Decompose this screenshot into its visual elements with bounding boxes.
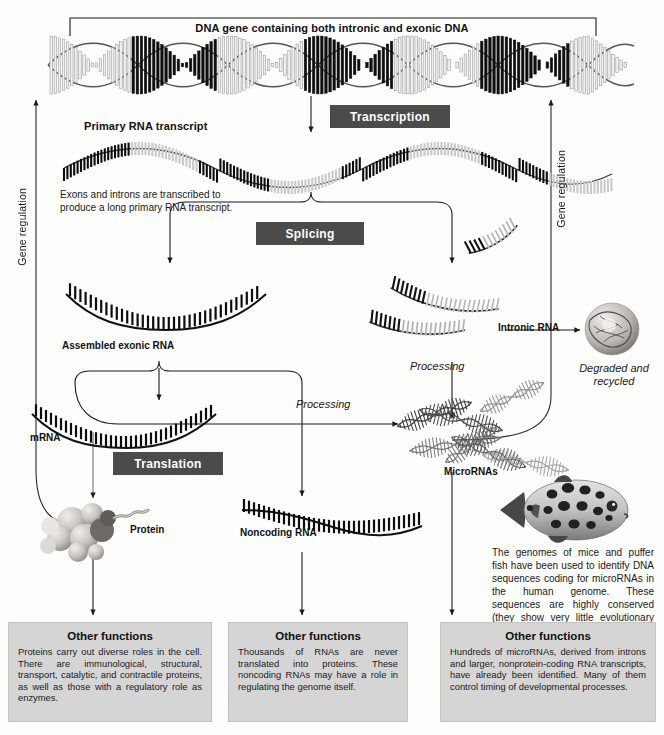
processing-label-left: Processing — [296, 398, 350, 411]
noncoding-rna-label: Noncoding RNA — [240, 527, 317, 538]
function-box-micrornas: Other functions Hundreds of microRNAs, d… — [440, 622, 656, 722]
assembled-exonic-rna-label: Assembled exonic RNA — [62, 340, 174, 351]
function-box-body: Hundreds of microRNAs, derived from intr… — [450, 646, 646, 692]
chip-translation[interactable]: Translation — [113, 452, 223, 475]
chip-transcription[interactable]: Transcription — [330, 105, 450, 128]
function-box-heading: Other functions — [18, 630, 202, 642]
function-box-noncoding-rna: Other functions Thousands of RNAs are ne… — [228, 622, 408, 722]
pufferfish-icon — [490, 470, 650, 550]
degraded-recycled-label: Degraded and recycled — [578, 362, 650, 388]
mrna-label: mRNA — [30, 432, 61, 443]
mrna-icon — [28, 404, 220, 450]
degraded-protein-icon — [578, 298, 646, 360]
intronic-rna-label: Intronic RNA — [498, 322, 559, 333]
rna-strand-icon-primary — [60, 138, 620, 190]
gene-regulation-label-right: Gene regulation — [555, 150, 567, 228]
protein-label: Protein — [130, 524, 164, 535]
gene-regulation-label-left: Gene regulation — [16, 188, 28, 266]
intronic-rna-icon — [370, 244, 570, 354]
figure-canvas: DNA gene containing both intronic and ex… — [0, 0, 664, 735]
dna-helix-icon — [40, 34, 640, 96]
primary-rna-transcript-label: Primary RNA transcript — [84, 120, 207, 132]
processing-label-right: Processing — [410, 360, 464, 373]
function-box-heading: Other functions — [450, 630, 646, 642]
dna-gene-bracket-label: DNA gene containing both intronic and ex… — [0, 22, 664, 34]
transcript-note: Exons and introns are transcribed to pro… — [60, 188, 310, 214]
microrna-tangle-icon — [392, 392, 577, 474]
function-box-body: Thousands of RNAs are never translated i… — [238, 646, 398, 692]
function-box-body: Proteins carry out diverse roles in the … — [18, 646, 202, 704]
chip-splicing[interactable]: Splicing — [256, 222, 364, 245]
assembled-exonic-rna-icon — [62, 282, 272, 332]
function-box-heading: Other functions — [238, 630, 398, 642]
function-box-proteins: Other functions Proteins carry out diver… — [8, 622, 212, 722]
